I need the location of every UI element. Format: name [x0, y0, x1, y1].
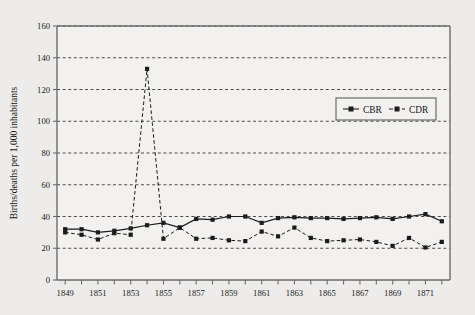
x-tick-label: 1851 — [89, 288, 106, 298]
legend-marker-cbr — [349, 107, 354, 112]
y-tick-label: 100 — [37, 116, 50, 126]
data-point-marker — [309, 236, 313, 240]
data-point-marker — [440, 219, 444, 223]
data-point-marker — [129, 233, 133, 237]
legend-label-cdr: CDR — [409, 105, 429, 115]
data-point-marker — [112, 231, 116, 235]
y-tick-label: 20 — [41, 243, 50, 253]
x-tick-label: 1859 — [220, 288, 237, 298]
data-point-marker — [276, 234, 280, 238]
data-point-marker — [243, 239, 247, 243]
y-tick-label: 0 — [46, 275, 50, 285]
data-point-marker — [292, 226, 296, 230]
data-point-marker — [309, 216, 313, 220]
chart-figure: 020406080100120140160 184918511853185518… — [0, 0, 475, 315]
data-point-marker — [292, 215, 296, 219]
data-point-marker — [440, 240, 444, 244]
data-point-marker — [79, 233, 83, 237]
data-point-marker — [161, 237, 165, 241]
data-point-marker — [210, 218, 214, 222]
x-tick-label: 1867 — [351, 288, 369, 298]
data-point-marker — [358, 237, 362, 241]
line-chart: 020406080100120140160 184918511853185518… — [0, 0, 475, 315]
y-tick-label: 60 — [41, 180, 50, 190]
data-point-marker — [407, 214, 411, 218]
data-point-marker — [325, 216, 329, 220]
data-point-marker — [227, 214, 231, 218]
data-point-marker — [407, 236, 411, 240]
legend-label-cbr: CBR — [363, 105, 383, 115]
data-point-marker — [194, 237, 198, 241]
data-point-marker — [423, 245, 427, 249]
data-point-marker — [260, 229, 264, 233]
x-tick-label: 1863 — [286, 288, 303, 298]
y-tick-label: 40 — [41, 212, 50, 222]
data-point-marker — [325, 239, 329, 243]
data-point-marker — [374, 215, 378, 219]
data-point-marker — [358, 216, 362, 220]
y-tick-label: 120 — [37, 85, 50, 95]
data-point-marker — [79, 227, 83, 231]
data-point-marker — [423, 212, 427, 216]
x-tick-label: 1869 — [384, 288, 401, 298]
data-point-marker — [63, 230, 67, 234]
data-point-marker — [96, 237, 100, 241]
data-point-marker — [243, 214, 247, 218]
data-point-marker — [260, 221, 264, 225]
y-tick-label: 160 — [37, 21, 50, 31]
data-point-marker — [341, 217, 345, 221]
data-point-marker — [341, 238, 345, 242]
data-point-marker — [391, 244, 395, 248]
data-point-marker — [145, 223, 149, 227]
data-point-marker — [210, 236, 214, 240]
y-tick-label: 80 — [41, 148, 50, 158]
x-tick-label: 1871 — [417, 288, 434, 298]
data-point-marker — [391, 217, 395, 221]
data-point-marker — [276, 216, 280, 220]
x-tick-label: 1857 — [188, 288, 206, 298]
x-tick-label: 1855 — [155, 288, 172, 298]
data-point-marker — [96, 230, 100, 234]
x-tick-label: 1853 — [122, 288, 139, 298]
x-tick-label: 1861 — [253, 288, 270, 298]
legend: CBR CDR — [336, 98, 436, 120]
data-point-marker — [178, 226, 182, 230]
x-tick-label: 1849 — [57, 288, 74, 298]
y-tick-label: 140 — [37, 53, 50, 63]
legend-marker-cdr — [395, 107, 400, 112]
data-point-marker — [194, 217, 198, 221]
y-axis-label: Births/deaths per 1,000 inhabitants — [9, 86, 19, 219]
x-tick-label: 1865 — [319, 288, 336, 298]
data-point-marker — [145, 67, 149, 71]
data-point-marker — [374, 240, 378, 244]
data-point-marker — [227, 238, 231, 242]
